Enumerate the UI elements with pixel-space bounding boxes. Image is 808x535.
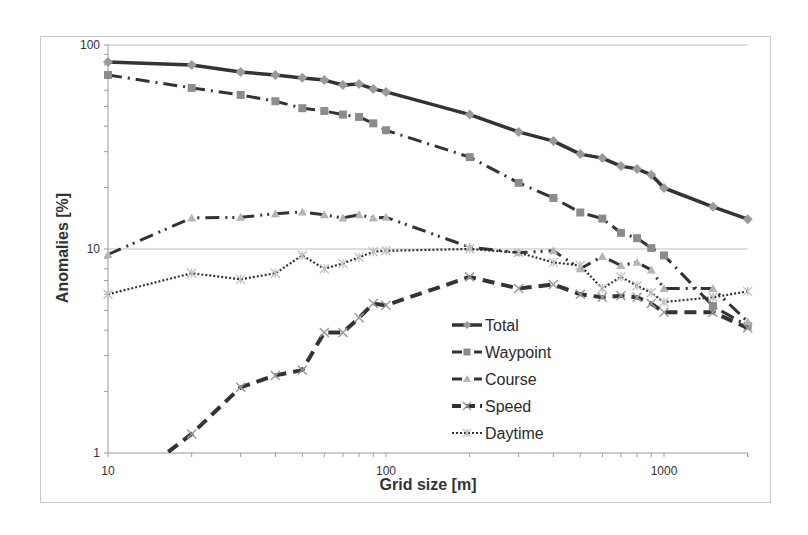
legend-label: Speed [485, 398, 531, 415]
y-tick-label: 10 [87, 242, 101, 256]
y-axis-title: Anomalies [%] [54, 193, 71, 303]
square-marker [633, 234, 641, 242]
square-marker [647, 244, 655, 252]
y-tick-label: 100 [80, 38, 100, 52]
square-marker [576, 208, 584, 216]
legend-label: Daytime [485, 425, 544, 442]
legend-label: Waypoint [485, 344, 552, 361]
square-marker [617, 229, 625, 237]
legend-label: Total [485, 317, 519, 334]
legend-label: Course [485, 371, 537, 388]
square-marker [382, 126, 390, 134]
square-marker [298, 104, 306, 112]
square-marker [515, 179, 523, 187]
x-tick-label: 10 [101, 464, 115, 478]
square-marker [598, 215, 606, 223]
square-marker [466, 153, 474, 161]
square-marker [188, 84, 196, 92]
chart-frame [41, 37, 771, 503]
square-marker [464, 349, 471, 356]
square-marker [660, 251, 668, 259]
square-marker [369, 119, 377, 127]
x-axis-title: Grid size [m] [380, 476, 477, 493]
square-marker [320, 107, 328, 115]
square-marker [355, 113, 363, 121]
square-marker [271, 97, 279, 105]
x-tick-label: 1000 [651, 464, 678, 478]
square-marker [549, 194, 557, 202]
square-marker [237, 91, 245, 99]
y-tick-label: 1 [93, 446, 100, 460]
square-marker [104, 71, 112, 79]
chart: 101001000 110100 Grid size [m] Anomalies… [0, 0, 808, 535]
square-marker [339, 111, 347, 119]
